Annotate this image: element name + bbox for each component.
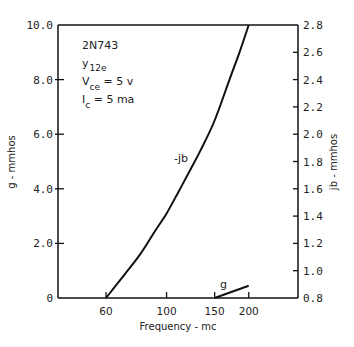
vce-value: = 5 v xyxy=(100,75,134,88)
y-left-tick-label: 2.0 xyxy=(33,237,53,250)
y-right-tick-label: 1.4 xyxy=(303,210,323,223)
param-main: y xyxy=(82,57,89,70)
series-label-g: g xyxy=(220,278,227,291)
x-tick-label: 200 xyxy=(239,305,259,317)
ticks: 6010015020002.04.06.08.010.00.81.01.21.4… xyxy=(27,19,324,317)
y-left-tick-label: 4.0 xyxy=(33,183,53,196)
annotation-block: 2N743 y12e Vce = 5 v Ic = 5 ma xyxy=(82,39,134,110)
y-right-tick-label: 2.4 xyxy=(303,74,323,87)
series-label-jb: -jb xyxy=(174,152,188,165)
y-right-tick-label: 1.0 xyxy=(303,265,323,278)
y-left-tick-label: 6.0 xyxy=(33,128,53,141)
x-axis-title: Frequency - mc xyxy=(140,321,217,332)
x-tick-label: 60 xyxy=(99,305,112,317)
y-right-tick-label: 1.6 xyxy=(303,183,323,196)
y-left-tick-label: 0 xyxy=(46,292,53,305)
y-right-tick-label: 2.2 xyxy=(303,101,323,114)
y-left-tick-label: 10.0 xyxy=(27,19,54,32)
chart: 6010015020002.04.06.08.010.00.81.01.21.4… xyxy=(0,0,354,347)
ic-value: = 5 ma xyxy=(90,93,134,106)
y-right-tick-label: 2.8 xyxy=(303,19,323,32)
y-right-axis-title: jb - mmhos xyxy=(328,134,339,191)
y-left-axis-title: g - mmhos xyxy=(6,135,17,188)
parameter-label: y12e xyxy=(82,57,107,73)
y-right-tick-label: 0.8 xyxy=(303,292,323,305)
ic-label: Ic = 5 ma xyxy=(82,93,134,110)
y-right-tick-label: 1.8 xyxy=(303,156,323,169)
y-right-tick-label: 1.2 xyxy=(303,237,323,250)
param-sub: 12e xyxy=(90,63,107,73)
x-tick-label: 150 xyxy=(205,305,225,317)
y-right-tick-label: 2.0 xyxy=(303,128,323,141)
y-left-tick-label: 8.0 xyxy=(33,74,53,87)
vce-label: Vce = 5 v xyxy=(82,75,134,92)
device-label: 2N743 xyxy=(82,39,118,52)
vce-sub: ce xyxy=(90,82,101,92)
x-tick-label: 100 xyxy=(157,305,177,317)
y-right-tick-label: 2.6 xyxy=(303,46,323,59)
